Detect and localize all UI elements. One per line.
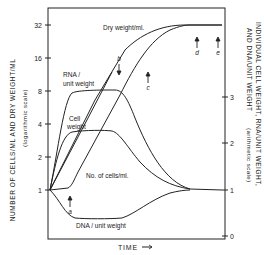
- dry-weight-label: Dry weight/ml.: [103, 24, 144, 32]
- arrow-d-icon: [195, 37, 199, 41]
- right-tick-label: 3: [230, 94, 234, 101]
- annotation-a: a: [68, 208, 72, 215]
- left-tick-label: 1: [38, 187, 42, 194]
- left-tick-label: 8: [38, 88, 42, 95]
- cell-count-label: No. of cells/ml.: [86, 172, 129, 179]
- left-tick-label: 4: [38, 121, 42, 128]
- annotation-b: b: [117, 55, 121, 62]
- rna-curve: [50, 90, 222, 190]
- left-tick-label: 16: [34, 55, 42, 62]
- cell-weight-curve: [50, 130, 190, 190]
- right-axis-title: INDIVIDUAL CELL WEIGHT, RNA/UNIT WEIGHT,: [255, 22, 262, 186]
- right-axis-subtitle: (arithmetic scale): [246, 128, 252, 183]
- cell-weight-label-2: weight: [66, 123, 86, 131]
- arrow-a-icon: [68, 196, 72, 200]
- arrow-b-icon: [117, 71, 121, 75]
- arrow-e-icon: [216, 37, 220, 41]
- left-tick-label: 2: [38, 154, 42, 161]
- right-tick-label: 0: [230, 233, 234, 240]
- left-tick-label: 32: [34, 22, 42, 29]
- dna-label: DNA / unit weight: [76, 222, 126, 230]
- annotation-d: d: [195, 49, 199, 56]
- annotation-e: e: [216, 49, 220, 56]
- right-axis-title-2: AND DNA/UNIT WEIGHT: [246, 28, 253, 111]
- chart: 1 2 4 8 16 32 0 1 2 3 NUMBER OF CELLS/ML…: [0, 0, 264, 255]
- cell-weight-label-1: Cell: [69, 115, 81, 122]
- right-tick-label: 1: [230, 187, 234, 194]
- left-axis-title: NUMBER OF CELLS/ML AND DRY WEIGHT/ML: [9, 59, 16, 222]
- annotation-c: c: [146, 84, 150, 91]
- rna-label-1: RNA /: [63, 71, 80, 78]
- left-axis-subtitle: (logarithmic scale): [22, 89, 28, 147]
- rna-label-2: unit weight: [63, 80, 94, 88]
- x-axis-title: TIME: [118, 244, 138, 251]
- right-tick-label: 2: [230, 140, 234, 147]
- arrow-c-icon: [146, 72, 150, 76]
